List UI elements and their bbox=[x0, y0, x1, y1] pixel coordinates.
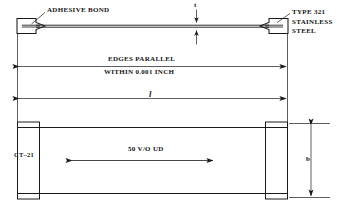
adhesive-bond-label: ADHESIVE BOND bbox=[47, 7, 109, 15]
plan-view-group bbox=[18, 122, 288, 199]
drawing-canvas: ADHESIVE BOND TYPE 321 STAINLESS STEEL t… bbox=[0, 0, 340, 206]
right-end-tab-edge bbox=[260, 19, 288, 34]
tolerance-label-line2: WITHIN 0.001 INCH bbox=[104, 69, 174, 77]
left-tab-outline bbox=[17, 19, 45, 34]
right-end-tab-plan bbox=[266, 122, 288, 199]
material-line-2: STAINLESS bbox=[292, 18, 333, 28]
thickness-label: t bbox=[194, 2, 197, 10]
specimen-edge-profile bbox=[36, 25, 269, 27]
fiber-content-label: 50 V/O UD bbox=[128, 146, 164, 154]
specimen-id-label: CT–21 bbox=[14, 151, 34, 158]
material-line-1: TYPE 321 bbox=[292, 8, 333, 18]
extension-lines bbox=[18, 34, 288, 129]
right-tab-outline bbox=[260, 19, 288, 34]
tolerance-label-line1: EDGES PARALLEL bbox=[108, 56, 175, 64]
width-label: b bbox=[306, 156, 310, 164]
length-label: l bbox=[149, 90, 152, 100]
left-end-tab-plan bbox=[18, 122, 40, 199]
left-end-tab-edge bbox=[17, 19, 45, 34]
material-callout: TYPE 321 STAINLESS STEEL bbox=[292, 8, 333, 37]
material-line-3: STEEL bbox=[292, 27, 333, 37]
engineering-drawing-svg bbox=[0, 0, 340, 206]
